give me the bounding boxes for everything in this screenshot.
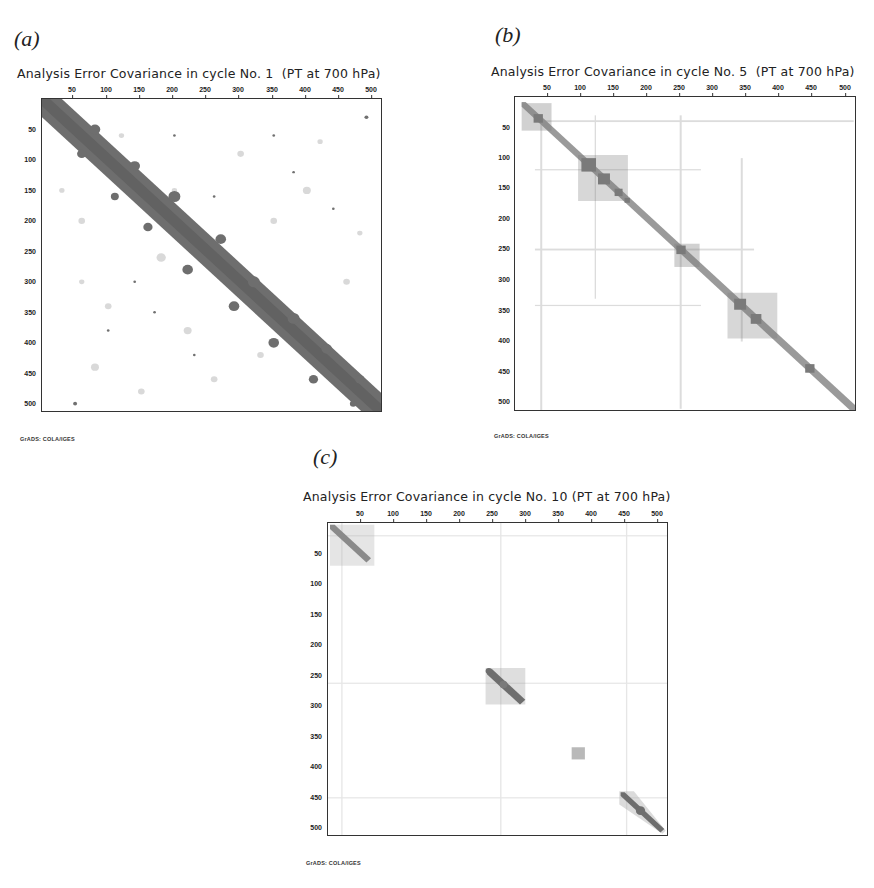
panel-b-heatmap bbox=[514, 96, 856, 411]
panel-c-title: Analysis Error Covariance in cycle No. 1… bbox=[303, 489, 671, 504]
x-tick: 300 bbox=[232, 86, 244, 93]
x-tick: 250 bbox=[199, 86, 211, 93]
y-tick: 300 bbox=[10, 278, 36, 285]
x-tick: 150 bbox=[420, 510, 432, 517]
y-tick: 500 bbox=[10, 400, 36, 407]
y-tick: 450 bbox=[484, 368, 510, 375]
y-tick: 50 bbox=[484, 124, 510, 131]
x-tick: 350 bbox=[552, 510, 564, 517]
y-tick: 100 bbox=[484, 154, 510, 161]
x-tick: 200 bbox=[166, 86, 178, 93]
y-tick: 250 bbox=[484, 245, 510, 252]
x-tick: 50 bbox=[356, 510, 364, 517]
y-tick: 500 bbox=[296, 824, 322, 831]
y-tick: 300 bbox=[296, 702, 322, 709]
x-tick: 400 bbox=[585, 510, 597, 517]
panel-a-matrix bbox=[42, 99, 381, 411]
x-tick: 50 bbox=[543, 84, 551, 91]
x-tick: 450 bbox=[805, 84, 817, 91]
y-tick: 400 bbox=[484, 337, 510, 344]
y-tick: 350 bbox=[484, 307, 510, 314]
y-tick: 450 bbox=[10, 370, 36, 377]
y-tick: 50 bbox=[296, 550, 322, 557]
y-tick: 200 bbox=[10, 217, 36, 224]
x-tick: 500 bbox=[365, 86, 377, 93]
x-tick: 100 bbox=[574, 84, 586, 91]
x-tick: 250 bbox=[673, 84, 685, 91]
x-tick: 50 bbox=[68, 86, 76, 93]
x-tick: 450 bbox=[332, 86, 344, 93]
y-tick: 100 bbox=[10, 156, 36, 163]
panel-a-credit: GrADS: COLA/IGES bbox=[20, 436, 75, 442]
y-tick: 350 bbox=[10, 309, 36, 316]
x-tick: 350 bbox=[739, 84, 751, 91]
y-tick: 150 bbox=[296, 611, 322, 618]
x-tick: 300 bbox=[519, 510, 531, 517]
panel-b-matrix bbox=[515, 97, 855, 410]
y-tick: 350 bbox=[296, 733, 322, 740]
y-tick: 400 bbox=[10, 339, 36, 346]
x-tick: 400 bbox=[772, 84, 784, 91]
x-tick: 200 bbox=[640, 84, 652, 91]
x-tick: 350 bbox=[266, 86, 278, 93]
x-tick: 150 bbox=[133, 86, 145, 93]
x-tick: 500 bbox=[651, 510, 663, 517]
y-tick: 150 bbox=[484, 184, 510, 191]
y-tick: 150 bbox=[10, 187, 36, 194]
x-tick: 150 bbox=[607, 84, 619, 91]
y-tick: 500 bbox=[484, 398, 510, 405]
y-tick: 200 bbox=[484, 215, 510, 222]
y-tick: 50 bbox=[10, 126, 36, 133]
panel-b-title: Analysis Error Covariance in cycle No. 5… bbox=[491, 64, 855, 79]
panel-a-heatmap bbox=[41, 98, 382, 412]
panel-c-credit: GrADS: COLA/IGES bbox=[306, 860, 361, 866]
panel-c-heatmap bbox=[327, 522, 668, 836]
x-tick: 250 bbox=[486, 510, 498, 517]
y-tick: 250 bbox=[296, 672, 322, 679]
panel-b-credit: GrADS: COLA/IGES bbox=[494, 433, 549, 439]
x-tick: 300 bbox=[706, 84, 718, 91]
panel-a-title: Analysis Error Covariance in cycle No. 1… bbox=[17, 66, 381, 81]
panel-c-matrix bbox=[328, 523, 667, 835]
y-tick: 200 bbox=[296, 641, 322, 648]
panel-c-label: (c) bbox=[313, 444, 337, 470]
y-tick: 300 bbox=[484, 276, 510, 283]
y-tick: 100 bbox=[296, 580, 322, 587]
x-tick: 500 bbox=[839, 84, 851, 91]
panel-a-label: (a) bbox=[14, 26, 40, 52]
x-tick: 100 bbox=[387, 510, 399, 517]
x-tick: 100 bbox=[100, 86, 112, 93]
y-tick: 400 bbox=[296, 763, 322, 770]
panel-b-label: (b) bbox=[495, 22, 521, 48]
x-tick: 400 bbox=[299, 86, 311, 93]
y-tick: 450 bbox=[296, 794, 322, 801]
x-tick: 450 bbox=[618, 510, 630, 517]
y-tick: 250 bbox=[10, 248, 36, 255]
x-tick: 200 bbox=[453, 510, 465, 517]
